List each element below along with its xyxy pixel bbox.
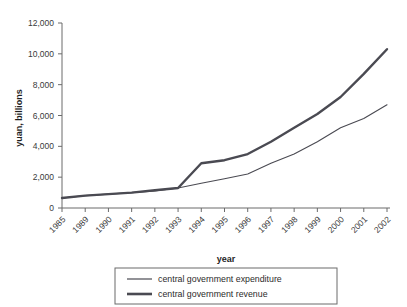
x-tick-label: 2001 [349,214,370,235]
x-tick-label: 1997 [256,214,277,235]
chart-canvas: yuan, billions 02,0004,0006,0008,00010,0… [0,0,407,307]
chart-legend: central government expenditure central g… [115,268,337,304]
y-tick-label: 2,000 [33,172,55,182]
legend-label-revenue: central government revenue [158,289,268,299]
x-tick-label: 1999 [302,214,323,235]
x-tick-label: 1990 [93,214,114,235]
y-tick-label: 12,000 [28,18,54,28]
x-tick-label: 1995 [209,214,230,235]
series-group [62,49,387,198]
x-tick-label: 1996 [233,214,254,235]
y-tick-label: 0 [49,203,54,213]
series-line-central-government-revenue [62,49,387,198]
line-chart: yuan, billions 02,0004,0006,0008,00010,0… [0,0,407,307]
x-tick-label: 1998 [279,214,300,235]
x-axis-title: year [217,254,236,264]
x-tick-label: 1989 [70,214,91,235]
x-tick-label: 1992 [140,214,161,235]
y-axis-ticks: 02,0004,0006,0008,00010,00012,000 [28,18,62,213]
y-tick-label: 6,000 [33,111,55,121]
x-tick-label: 2002 [372,214,393,235]
y-axis-title: yuan, billions [14,89,24,147]
x-tick-label: 1985 [47,214,68,235]
x-tick-label: 1994 [186,214,207,235]
x-tick-label: 2000 [326,214,347,235]
x-axis-ticks: 1985198919901991199219931994199519961997… [47,208,393,235]
y-tick-label: 8,000 [33,80,55,90]
series-line-central-government-expenditure [62,105,387,198]
y-tick-label: 4,000 [33,141,55,151]
legend-label-expenditure: central government expenditure [158,274,282,284]
x-tick-label: 1991 [117,214,138,235]
x-tick-label: 1993 [163,214,184,235]
y-tick-label: 10,000 [28,49,54,59]
